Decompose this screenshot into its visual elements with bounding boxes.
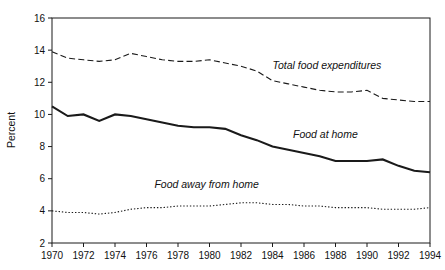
series-label-food-away-from-home: Food away from home [154, 178, 259, 190]
x-tick-label: 1974 [104, 250, 127, 261]
y-tick-label: 16 [34, 13, 46, 24]
chart-container: 246810121416 197019721974197619781980198… [0, 0, 445, 270]
series-label-food-at-home: Food at home [293, 128, 358, 140]
plot-area-border [52, 18, 430, 243]
y-tick-label: 14 [34, 45, 46, 56]
x-tick-label: 1986 [293, 250, 316, 261]
x-tick-label: 1976 [135, 250, 158, 261]
x-tick-label: 1970 [41, 250, 64, 261]
x-tick-label: 1982 [230, 250, 253, 261]
x-tick-label: 1978 [167, 250, 190, 261]
x-axis-ticks: 1970197219741976197819801982198419861988… [41, 243, 442, 261]
y-tick-label: 4 [39, 205, 45, 216]
x-tick-label: 1994 [419, 250, 442, 261]
series-label-total-food-expenditures: Total food expenditures [273, 59, 383, 71]
x-tick-label: 1984 [261, 250, 284, 261]
y-tick-label: 2 [39, 238, 45, 249]
x-tick-label: 1972 [72, 250, 95, 261]
plot-frame [52, 18, 430, 243]
y-axis-ticks: 246810121416 [34, 13, 52, 249]
line-chart: 246810121416 197019721974197619781980198… [0, 0, 445, 270]
y-tick-label: 8 [39, 141, 45, 152]
x-tick-label: 1992 [387, 250, 410, 261]
x-tick-label: 1988 [324, 250, 347, 261]
x-tick-label: 1980 [198, 250, 221, 261]
x-tick-label: 1990 [356, 250, 379, 261]
y-axis-title: Percent [5, 112, 17, 148]
y-tick-label: 6 [39, 173, 45, 184]
y-tick-label: 12 [34, 77, 46, 88]
y-tick-label: 10 [34, 109, 46, 120]
